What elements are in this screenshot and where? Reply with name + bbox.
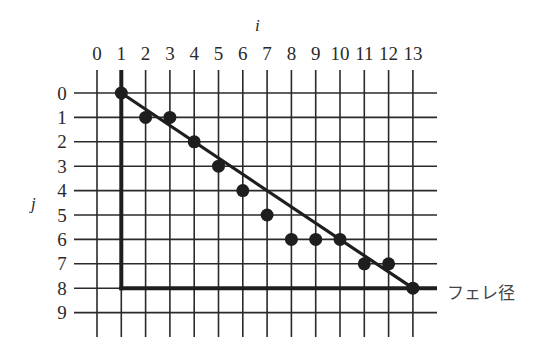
column-label: 6	[238, 43, 248, 64]
row-label: 0	[57, 83, 67, 104]
feret-diameter-diagram: 0123456789101112130123456789 i j フェレ径	[0, 0, 541, 355]
boundary-pixel-point	[309, 233, 322, 246]
feret-diameter-label: フェレ径	[447, 279, 515, 304]
column-label: 3	[165, 43, 175, 64]
boundary-pixel-point	[212, 160, 225, 173]
boundary-pixel-point	[382, 257, 395, 270]
axis-i-label: i	[255, 16, 260, 36]
boundary-pixel-point	[358, 257, 371, 270]
column-label: 2	[141, 43, 151, 64]
column-label: 1	[117, 43, 127, 64]
boundary-pixel-point	[334, 233, 347, 246]
column-label: 10	[331, 43, 350, 64]
row-label: 7	[57, 253, 67, 274]
row-label: 4	[57, 180, 67, 201]
row-label: 1	[57, 107, 67, 128]
column-label: 12	[379, 43, 398, 64]
row-label: 3	[57, 156, 67, 177]
row-label: 9	[57, 302, 67, 323]
column-label: 11	[355, 43, 373, 64]
row-label: 8	[57, 278, 67, 299]
boundary-pixel-point	[115, 87, 128, 100]
column-label: 9	[311, 43, 321, 64]
boundary-pixel-point	[285, 233, 298, 246]
axis-j-label: j	[31, 194, 36, 214]
boundary-pixel-point	[406, 282, 419, 295]
column-label: 8	[287, 43, 297, 64]
boundary-pixel-point	[163, 111, 176, 124]
column-label: 13	[403, 43, 422, 64]
row-label: 6	[57, 229, 67, 250]
column-label: 4	[189, 43, 199, 64]
boundary-pixel-point	[236, 184, 249, 197]
column-label: 5	[214, 43, 224, 64]
boundary-pixel-point	[261, 209, 274, 222]
boundary-pixel-point	[139, 111, 152, 124]
row-label: 2	[57, 131, 67, 152]
column-label: 7	[262, 43, 272, 64]
column-label: 0	[92, 43, 102, 64]
row-label: 5	[57, 205, 67, 226]
boundary-pixel-point	[188, 135, 201, 148]
